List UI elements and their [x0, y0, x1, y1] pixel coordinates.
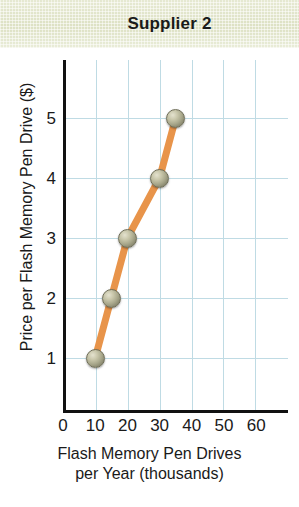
- y-axis-title: Price per Flash Memory Pen Drive ($): [18, 57, 36, 377]
- x-axis-title: Flash Memory Pen Drives per Year (thousa…: [0, 444, 299, 484]
- x-axis-tick-labels: 0102030405060: [0, 417, 299, 441]
- x-axis-tick-label: 60: [247, 417, 266, 434]
- data-point-marker: [102, 289, 121, 308]
- x-axis-tick-label: 0: [58, 417, 67, 434]
- x-axis-tick-label: 10: [86, 417, 105, 434]
- x-axis-tick-label: 50: [215, 417, 234, 434]
- x-axis-tick-label: 20: [118, 417, 137, 434]
- x-axis-tick-label: 30: [150, 417, 169, 434]
- data-point-marker: [86, 349, 105, 368]
- x-axis-tick-label: 40: [182, 417, 201, 434]
- x-axis-title-line-2: per Year (thousands): [0, 464, 299, 484]
- data-point-marker: [166, 109, 185, 128]
- x-axis-title-line-1: Flash Memory Pen Drives: [57, 445, 241, 462]
- chart-title-banner: Supplier 2: [0, 0, 299, 48]
- line-chart: 12345 0102030405060 Price per Flash Memo…: [0, 48, 299, 507]
- data-point-marker: [150, 169, 169, 188]
- page-title: Supplier 2: [87, 14, 211, 34]
- data-point-marker: [118, 229, 137, 248]
